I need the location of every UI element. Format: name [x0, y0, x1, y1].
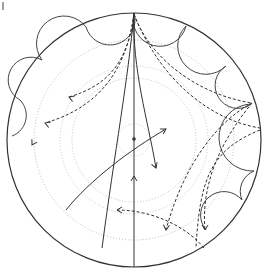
horocycle-arcs	[8, 13, 254, 230]
dashed-curve	[45, 14, 134, 123]
solid-geodesics	[66, 13, 166, 267]
horocycle-arc	[8, 57, 42, 100]
horocycle-arc	[12, 100, 26, 136]
dashed-curve	[69, 14, 134, 97]
horocycle-arc	[37, 16, 86, 60]
dashed-curve	[117, 210, 204, 248]
geodesic-line	[134, 13, 156, 168]
horocycle-arc	[219, 104, 254, 171]
poincare-disk-diagram	[0, 0, 271, 276]
horocycle-arc	[201, 192, 242, 230]
arrowhead-icon	[29, 139, 37, 146]
center-point	[132, 137, 136, 141]
horocycle-arc	[86, 13, 135, 45]
arrowhead-icon	[68, 94, 75, 101]
dashed-curve	[204, 103, 252, 230]
diagram-canvas	[0, 0, 271, 276]
dashed-curves	[45, 14, 260, 248]
geodesic-line	[102, 13, 134, 248]
